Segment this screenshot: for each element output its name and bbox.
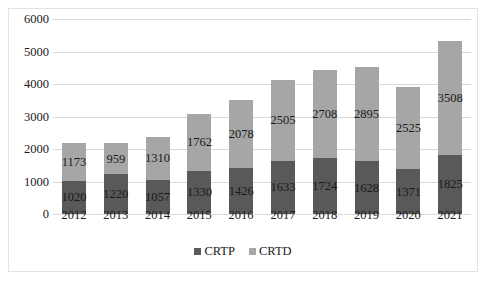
- bar-group: 13301762: [178, 19, 220, 214]
- x-axis-tick-label: 2017: [262, 209, 304, 222]
- bar-group: 17242708: [304, 19, 346, 214]
- y-axis-tick-label: 6000: [0, 13, 49, 26]
- bar-value-label-crtd: 2525: [396, 122, 421, 135]
- plot-area: 0100020003000400050006000102011731220959…: [53, 19, 471, 214]
- bar-segment-crtd[interactable]: 2708: [313, 70, 337, 158]
- legend-label: CRTP: [204, 245, 235, 258]
- x-axis-tick-label: 2020: [387, 209, 429, 222]
- y-axis-tick-label: 1000: [0, 175, 49, 188]
- bar-value-label-crtp: 1020: [62, 191, 87, 204]
- legend-item[interactable]: CRTD: [249, 245, 292, 258]
- bar-group: 18253508: [429, 19, 471, 214]
- legend-swatch-icon: [194, 248, 201, 255]
- chart-legend: CRTPCRTD: [9, 245, 477, 258]
- bar-segment-crtd[interactable]: 1173: [62, 143, 86, 181]
- bar-value-label-crtd: 2078: [229, 128, 254, 141]
- y-axis-tick-label: 0: [0, 208, 49, 221]
- bar-value-label-crtd: 3508: [438, 91, 463, 104]
- bar-value-label-crtp: 1825: [438, 178, 463, 191]
- legend-item[interactable]: CRTP: [194, 245, 235, 258]
- chart-frame: 0100020003000400050006000102011731220959…: [8, 8, 478, 272]
- x-axis-tick-label: 2021: [429, 209, 471, 222]
- bar-group: 1220959: [95, 19, 137, 214]
- bar-value-label-crtp: 1628: [354, 181, 379, 194]
- x-axis-tick-label: 2018: [304, 209, 346, 222]
- bar-group: 14262078: [220, 19, 262, 214]
- bar-value-label-crtd: 2505: [271, 114, 296, 127]
- bar-segment-crtd[interactable]: 1762: [187, 114, 211, 171]
- bar-segment-crtd[interactable]: 1310: [146, 137, 170, 180]
- bar-value-label-crtd: 1310: [145, 152, 170, 165]
- bar-segment-crtp[interactable]: 1633: [271, 161, 295, 214]
- bar-segment-crtp[interactable]: 1628: [355, 161, 379, 214]
- bar-segment-crtp[interactable]: 1825: [438, 155, 462, 214]
- legend-swatch-icon: [249, 248, 256, 255]
- bar-value-label-crtp: 1057: [145, 191, 170, 204]
- bar-segment-crtp[interactable]: 1724: [313, 158, 337, 214]
- y-axis-tick-label: 5000: [0, 45, 49, 58]
- bar-value-label-crtd: 2708: [312, 108, 337, 121]
- x-axis-tick-label: 2012: [53, 209, 95, 222]
- x-axis-tick-label: 2014: [137, 209, 179, 222]
- bar-value-label-crtd: 2895: [354, 108, 379, 121]
- bar-value-label-crtd: 1173: [62, 156, 87, 169]
- bar-segment-crtd[interactable]: 2078: [229, 100, 253, 168]
- bar-value-label-crtp: 1220: [103, 188, 128, 201]
- bar-segment-crtd[interactable]: 2895: [355, 67, 379, 161]
- bar-group: 13712525: [387, 19, 429, 214]
- y-axis-tick-label: 4000: [0, 78, 49, 91]
- bar-value-label-crtd: 1762: [187, 136, 212, 149]
- x-axis-tick-label: 2019: [346, 209, 388, 222]
- x-axis-tick-label: 2013: [95, 209, 137, 222]
- bar-value-label-crtd: 959: [106, 153, 125, 166]
- bar-segment-crtd[interactable]: 3508: [438, 41, 462, 155]
- x-axis-tick-label: 2015: [178, 209, 220, 222]
- legend-label: CRTD: [259, 245, 292, 258]
- bar-group: 16282895: [346, 19, 388, 214]
- bar-group: 16332505: [262, 19, 304, 214]
- bar-value-label-crtp: 1426: [229, 185, 254, 198]
- bar-value-label-crtp: 1330: [187, 186, 212, 199]
- bar-group: 10201173: [53, 19, 95, 214]
- bar-value-label-crtp: 1371: [396, 185, 421, 198]
- y-axis-tick-label: 3000: [0, 110, 49, 123]
- bar-group: 10571310: [137, 19, 179, 214]
- bar-segment-crtd[interactable]: 2505: [271, 80, 295, 161]
- bar-value-label-crtp: 1633: [271, 181, 296, 194]
- x-axis-tick-label: 2016: [220, 209, 262, 222]
- bar-segment-crtd[interactable]: 2525: [396, 87, 420, 169]
- y-axis-tick-label: 2000: [0, 143, 49, 156]
- bar-value-label-crtp: 1724: [312, 180, 337, 193]
- bar-segment-crtd[interactable]: 959: [104, 143, 128, 174]
